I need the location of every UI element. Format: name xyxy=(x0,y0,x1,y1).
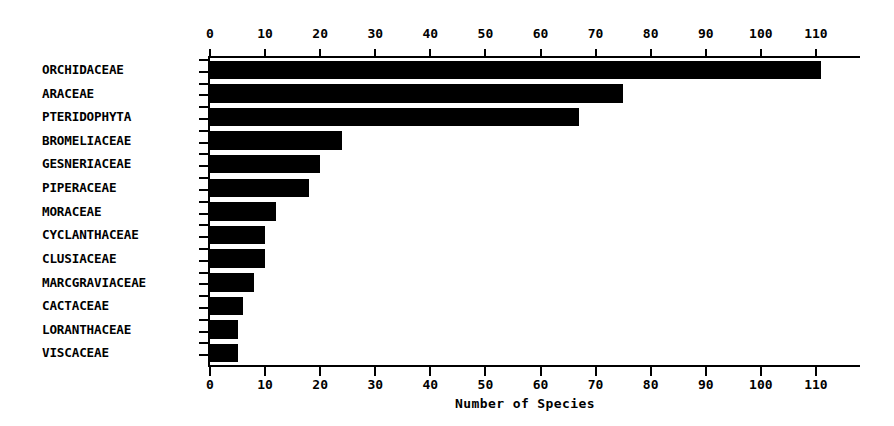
bottom-axis-tick-label: 80 xyxy=(631,377,671,392)
bar xyxy=(210,202,276,221)
category-tick xyxy=(199,94,208,96)
bar xyxy=(210,131,342,150)
top-axis-tick-label: 40 xyxy=(410,26,450,41)
bar xyxy=(210,179,309,198)
bar xyxy=(210,297,243,316)
category-tick xyxy=(199,248,208,250)
category-label: MORACEAE xyxy=(42,200,208,224)
top-axis-tick xyxy=(264,49,266,58)
category-tick xyxy=(199,201,208,203)
bottom-axis-tick-label: 90 xyxy=(686,377,726,392)
bottom-axis-tick xyxy=(815,367,817,376)
bar xyxy=(210,273,254,292)
bottom-axis-tick xyxy=(374,367,376,376)
top-axis-tick xyxy=(319,49,321,58)
category-label: BROMELIACEAE xyxy=(42,129,208,153)
top-axis-tick-label: 20 xyxy=(300,26,340,41)
category-label: PIPERACEAE xyxy=(42,176,208,200)
bar xyxy=(210,155,320,174)
top-axis-tick-label: 60 xyxy=(521,26,561,41)
category-tick xyxy=(199,83,208,85)
top-axis-tick-label: 80 xyxy=(631,26,671,41)
top-axis-tick xyxy=(429,49,431,58)
category-tick xyxy=(199,59,208,61)
category-tick xyxy=(199,342,208,344)
top-axis-tick xyxy=(540,49,542,58)
bottom-axis-tick-label: 40 xyxy=(410,377,450,392)
top-x-axis: 0102030405060708090100110 xyxy=(210,20,894,60)
top-axis-tick-label: 0 xyxy=(190,26,230,41)
bottom-axis-tick xyxy=(264,367,266,376)
category-tick xyxy=(199,307,208,309)
bottom-axis-tick-label: 100 xyxy=(741,377,781,392)
category-tick xyxy=(199,177,208,179)
top-axis-tick xyxy=(374,49,376,58)
bottom-axis-tick-label: 10 xyxy=(245,377,285,392)
category-label: CACTACEAE xyxy=(42,294,208,318)
category-tick xyxy=(199,71,208,73)
category-tick xyxy=(199,142,208,144)
bottom-axis-tick-label: 20 xyxy=(300,377,340,392)
category-label: LORANTHACEAE xyxy=(42,318,208,342)
category-tick xyxy=(199,106,208,108)
top-axis-tick xyxy=(650,49,652,58)
top-axis-tick-label: 10 xyxy=(245,26,285,41)
bar xyxy=(210,61,821,80)
top-axis-tick-label: 100 xyxy=(741,26,781,41)
top-axis-tick xyxy=(705,49,707,58)
category-tick xyxy=(199,354,208,356)
top-axis-tick xyxy=(209,49,211,58)
category-axis-labels: ORCHIDACEAEARACEAEPTERIDOPHYTABROMELIACE… xyxy=(42,58,208,365)
bottom-axis-tick-label: 110 xyxy=(796,377,836,392)
bottom-axis-tick xyxy=(429,367,431,376)
bottom-axis-tick xyxy=(319,367,321,376)
bottom-axis-tick xyxy=(540,367,542,376)
bottom-axis-tick xyxy=(760,367,762,376)
category-tick xyxy=(199,283,208,285)
category-label: ORCHIDACEAE xyxy=(42,58,208,82)
category-tick xyxy=(199,331,208,333)
category-label: ARACEAE xyxy=(42,82,208,106)
category-tick xyxy=(199,165,208,167)
category-tick xyxy=(199,213,208,215)
bottom-axis-tick xyxy=(595,367,597,376)
bar xyxy=(210,108,579,127)
bottom-axis-tick xyxy=(705,367,707,376)
category-tick xyxy=(199,295,208,297)
bar xyxy=(210,226,265,245)
category-label: GESNERIACEAE xyxy=(42,152,208,176)
top-axis-tick-label: 110 xyxy=(796,26,836,41)
plot-area xyxy=(210,58,870,365)
top-axis-tick xyxy=(760,49,762,58)
top-axis-tick-label: 30 xyxy=(355,26,395,41)
top-axis-tick-label: 70 xyxy=(576,26,616,41)
category-tick xyxy=(199,260,208,262)
category-tick xyxy=(199,130,208,132)
bottom-axis-tick-label: 0 xyxy=(190,377,230,392)
top-axis-tick-label: 50 xyxy=(465,26,505,41)
bar xyxy=(210,344,238,363)
category-tick xyxy=(199,118,208,120)
top-axis-tick xyxy=(595,49,597,58)
bottom-axis-tick-label: 70 xyxy=(576,377,616,392)
bottom-axis-tick-label: 50 xyxy=(465,377,505,392)
bar xyxy=(210,249,265,268)
category-tick xyxy=(199,236,208,238)
category-label: MARCGRAVIACEAE xyxy=(42,271,208,295)
bottom-axis-tick xyxy=(650,367,652,376)
bottom-axis-tick xyxy=(209,367,211,376)
top-axis-tick xyxy=(815,49,817,58)
bottom-axis-tick-label: 30 xyxy=(355,377,395,392)
bottom-axis-tick-label: 60 xyxy=(521,377,561,392)
category-tick xyxy=(199,189,208,191)
category-label: PTERIDOPHYTA xyxy=(42,105,208,129)
category-label: CLUSIACEAE xyxy=(42,247,208,271)
category-tick xyxy=(199,224,208,226)
category-tick xyxy=(199,319,208,321)
bar xyxy=(210,84,623,103)
category-label: VISCACEAE xyxy=(42,341,208,365)
category-tick xyxy=(199,272,208,274)
bar xyxy=(210,320,238,339)
species-per-family-bar-chart: ORCHIDACEAEARACEAEPTERIDOPHYTABROMELIACE… xyxy=(0,0,894,426)
top-axis-tick-label: 90 xyxy=(686,26,726,41)
